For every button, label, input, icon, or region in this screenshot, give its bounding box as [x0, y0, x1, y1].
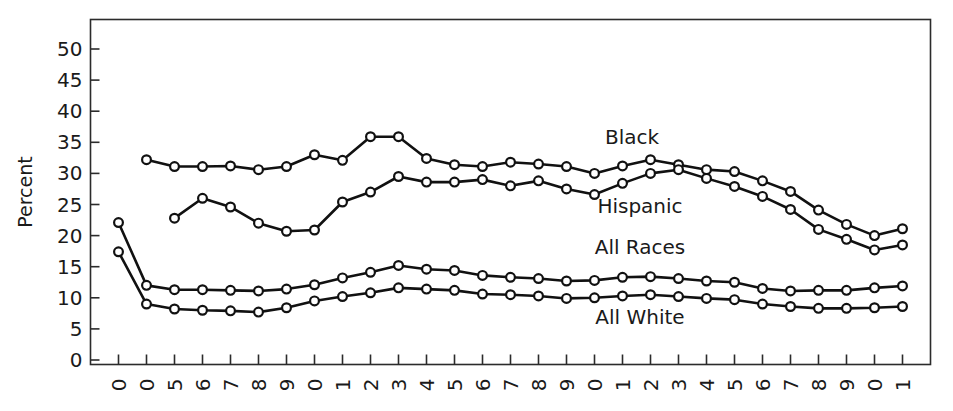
data-point-marker: [254, 308, 263, 317]
data-point-marker: [478, 290, 487, 299]
data-point-marker: [842, 235, 851, 244]
data-point-marker: [422, 154, 431, 163]
y-tick-label: 30: [57, 161, 82, 185]
x-tick-label: 1: [891, 379, 915, 392]
x-tick-label: 6: [471, 379, 495, 392]
data-point-marker: [814, 206, 823, 215]
data-point-marker: [758, 192, 767, 201]
x-tick-label: 8: [527, 379, 551, 392]
x-tick-label: 6: [751, 379, 775, 392]
data-point-marker: [786, 302, 795, 311]
data-point-marker: [310, 280, 319, 289]
data-point-marker: [702, 294, 711, 303]
data-series-group: [114, 132, 907, 316]
data-point-marker: [170, 162, 179, 171]
data-point-marker: [170, 305, 179, 314]
data-point-marker: [478, 271, 487, 280]
data-point-marker: [618, 162, 627, 171]
data-point-marker: [898, 282, 907, 291]
x-tick-label: 9: [555, 379, 579, 392]
y-tick-label: 5: [70, 317, 83, 341]
x-axis-ticks: 00567890123456789012345678901: [107, 355, 915, 392]
x-tick-label: 3: [387, 379, 411, 392]
data-point-marker: [422, 178, 431, 187]
y-tick-label: 10: [57, 286, 82, 310]
data-point-marker: [254, 165, 263, 174]
data-point-marker: [506, 273, 515, 282]
data-point-marker: [842, 286, 851, 295]
x-tick-label: 1: [611, 379, 635, 392]
data-point-marker: [590, 169, 599, 178]
data-point-marker: [674, 274, 683, 283]
data-point-marker: [786, 205, 795, 214]
data-point-marker: [142, 281, 151, 290]
data-point-marker: [394, 283, 403, 292]
x-tick-label: 5: [443, 379, 467, 392]
data-point-marker: [758, 176, 767, 185]
y-tick-label: 15: [57, 255, 82, 279]
y-tick-label: 20: [57, 224, 82, 248]
data-point-marker: [478, 162, 487, 171]
y-axis-ticks: 05101520253035404550: [57, 37, 99, 372]
poverty-rate-line-chart: 05101520253035404550 0056789012345678901…: [0, 0, 953, 411]
data-point-marker: [646, 169, 655, 178]
data-point-marker: [282, 162, 291, 171]
data-point-marker: [702, 165, 711, 174]
x-tick-label: 4: [695, 379, 719, 392]
data-point-marker: [534, 176, 543, 185]
series-hispanic: [170, 165, 907, 254]
data-point-marker: [786, 187, 795, 196]
y-tick-label: 0: [70, 348, 83, 372]
x-tick-label: 7: [499, 379, 523, 392]
series-label-all-races: All Races: [595, 235, 686, 259]
data-point-marker: [450, 178, 459, 187]
data-point-marker: [338, 274, 347, 283]
x-tick-label: 3: [667, 379, 691, 392]
data-point-marker: [282, 285, 291, 294]
data-point-marker: [618, 292, 627, 301]
data-point-marker: [170, 285, 179, 294]
data-point-marker: [506, 158, 515, 167]
data-point-marker: [814, 286, 823, 295]
data-point-marker: [198, 285, 207, 294]
data-point-marker: [534, 160, 543, 169]
data-point-marker: [898, 241, 907, 250]
data-point-marker: [758, 284, 767, 293]
data-point-marker: [870, 303, 879, 312]
data-point-marker: [478, 175, 487, 184]
data-point-marker: [590, 293, 599, 302]
data-point-marker: [198, 162, 207, 171]
data-point-marker: [226, 162, 235, 171]
data-point-marker: [758, 300, 767, 309]
series-label-black: Black: [605, 125, 660, 149]
y-tick-label: 40: [57, 99, 82, 123]
data-point-marker: [450, 266, 459, 275]
data-point-marker: [114, 218, 123, 227]
data-point-marker: [646, 155, 655, 164]
data-point-marker: [114, 247, 123, 256]
data-point-marker: [534, 292, 543, 301]
x-tick-label: 0: [135, 379, 159, 392]
x-tick-label: 5: [163, 379, 187, 392]
data-point-marker: [590, 276, 599, 285]
data-point-marker: [394, 172, 403, 181]
data-point-marker: [282, 227, 291, 236]
data-point-marker: [310, 150, 319, 159]
x-tick-label: 2: [639, 379, 663, 392]
data-point-marker: [226, 306, 235, 315]
data-point-marker: [730, 182, 739, 191]
x-tick-label: 8: [247, 379, 271, 392]
y-tick-label: 35: [57, 130, 82, 154]
x-tick-label: 8: [807, 379, 831, 392]
y-tick-label: 45: [57, 68, 82, 92]
data-point-marker: [870, 246, 879, 255]
data-point-marker: [674, 165, 683, 174]
data-point-marker: [562, 294, 571, 303]
data-point-marker: [422, 265, 431, 274]
data-point-marker: [618, 179, 627, 188]
x-tick-label: 7: [779, 379, 803, 392]
data-point-marker: [646, 290, 655, 299]
data-point-marker: [814, 225, 823, 234]
x-tick-label: 6: [191, 379, 215, 392]
x-tick-label: 2: [359, 379, 383, 392]
